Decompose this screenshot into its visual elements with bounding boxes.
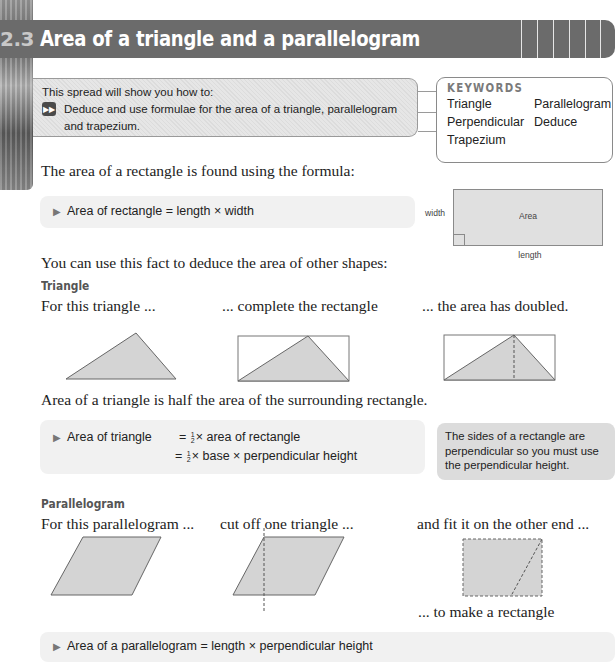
triangle-shape [66, 333, 176, 379]
parallelogram-caption-2: cut off one triangle ... [220, 515, 354, 533]
parallelogram-formula: Area of a parallelogram = length × perpe… [67, 639, 373, 653]
fraction-half: 12 [191, 432, 195, 444]
triangle-shape [238, 336, 349, 381]
fraction-half: 12 [187, 451, 191, 463]
shape-diagrams [0, 0, 615, 669]
bullet-arrow-icon: ▶ [53, 432, 61, 443]
parallelogram-shape [51, 537, 161, 595]
triangle-formula-line-1: × area of rectangle [196, 430, 301, 444]
triangle-formula-box: ▶Area of triangle= 12× area of rectangle… [40, 420, 425, 474]
parallelogram-formula-box: ▶Area of a parallelogram = length × perp… [40, 632, 615, 662]
bullet-arrow-icon: ▶ [53, 641, 61, 652]
triangle-formula-label: Area of triangle [67, 428, 179, 446]
parallelogram-heading: Parallelogram [41, 496, 125, 511]
parallelogram-caption-4: ... to make a rectangle [418, 603, 554, 621]
parallelogram-shape [233, 537, 344, 595]
formed-rectangle [463, 539, 542, 596]
note-box: The sides of a rectangle are perpendicul… [437, 423, 615, 480]
triangle-conclusion: Area of a triangle is half the area of t… [41, 391, 427, 409]
triangle-shape [444, 335, 555, 380]
parallelogram-caption-1: For this parallelogram ... [41, 515, 194, 533]
parallelogram-caption-3: and fit it on the other end ... [417, 515, 589, 533]
equals-sign: = [179, 430, 186, 444]
equals-sign: = [175, 449, 182, 463]
triangle-formula-line-2: × base × perpendicular height [192, 449, 357, 463]
